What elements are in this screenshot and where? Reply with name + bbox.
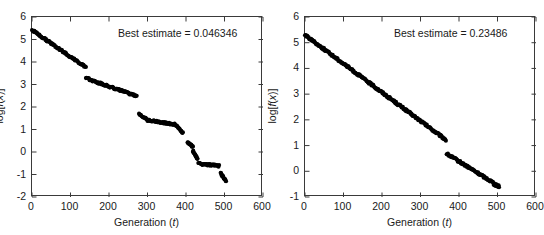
y-axis-label-variable: x	[0, 95, 5, 100]
chart-panel-right: 0100200300400500600-10123456 Best estima…	[271, 0, 542, 235]
y-tick-label: 4	[278, 62, 299, 73]
x-tick-label: 400	[176, 201, 194, 212]
x-tick-label: 500	[215, 201, 233, 212]
y-axis-label-function: f	[266, 104, 278, 107]
y-tick-label: 3	[278, 88, 299, 99]
chart-panel-left: 0100200300400500600-2-10123456 Best esti…	[0, 0, 271, 235]
y-axis-label-function: f	[0, 104, 5, 107]
x-axis-label-left: Generation (t)	[114, 216, 179, 228]
x-axis-label-variable: t	[172, 216, 175, 228]
data-layer-left	[32, 17, 261, 195]
y-tick-label: 5	[278, 36, 299, 47]
y-tick-label: -1	[5, 168, 26, 179]
y-axis-label-right: log[f(x)]	[266, 88, 278, 123]
x-tick-label: 200	[99, 201, 117, 212]
x-tick-label: 300	[138, 201, 156, 212]
x-tick-label: 100	[334, 201, 352, 212]
x-tick-label: 400	[449, 201, 467, 212]
x-tick-label: 300	[411, 201, 429, 212]
y-tick-label: 0	[5, 146, 26, 157]
x-tick-label: 100	[61, 201, 79, 212]
plot-area-left	[31, 16, 262, 196]
y-tick-label: 0	[278, 165, 299, 176]
plot-area-right	[304, 16, 535, 196]
x-tick-label: 200	[372, 201, 390, 212]
y-tick-label: 1	[5, 123, 26, 134]
y-tick-label: 5	[5, 33, 26, 44]
data-layer-right	[305, 17, 534, 195]
x-tick-label: 0	[301, 201, 307, 212]
y-tick-label: 2	[5, 101, 26, 112]
y-tick-label: 6	[278, 11, 299, 22]
y-tick-label: 3	[5, 78, 26, 89]
y-tick-label: 4	[5, 56, 26, 67]
x-tick-label: 600	[526, 201, 544, 212]
y-tick-label: -2	[5, 191, 26, 202]
x-tick-label: 500	[488, 201, 506, 212]
annotation-best-estimate-right: Best estimate = 0.23486	[394, 27, 508, 39]
y-axis-label-variable: x	[266, 95, 278, 100]
x-tick-label: 600	[253, 201, 271, 212]
x-axis-label-right: Generation (t)	[387, 216, 452, 228]
y-tick-label: 6	[5, 11, 26, 22]
y-tick-label: 2	[278, 114, 299, 125]
y-tick-label: -1	[278, 191, 299, 202]
y-tick-label: 1	[278, 139, 299, 150]
x-axis-label-variable: t	[445, 216, 448, 228]
annotation-best-estimate-left: Best estimate = 0.046346	[118, 27, 237, 39]
y-axis-label-left: log[f(x)]	[0, 88, 5, 123]
x-tick-label: 0	[28, 201, 34, 212]
